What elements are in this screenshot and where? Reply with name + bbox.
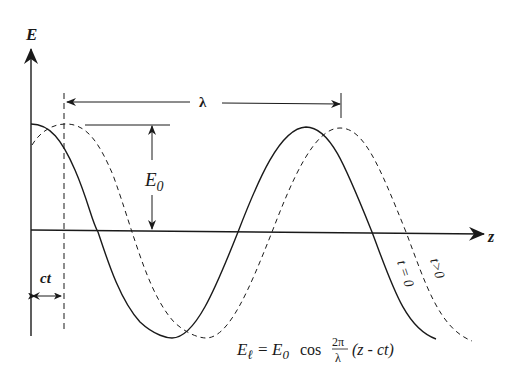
wave-diagram: E z ct λ E0 t = 0 t>0 Eℓ = E0 cos 2π λ (…	[0, 0, 515, 385]
e-axis-label: E	[25, 25, 37, 44]
z-axis-label: z	[487, 228, 495, 245]
wavelength-label: λ	[199, 94, 207, 110]
svg-text:=: =	[258, 340, 268, 359]
svg-text:E0: E0	[271, 340, 289, 362]
svg-text:Eℓ: Eℓ	[236, 340, 253, 362]
amplitude-label: E0	[144, 169, 164, 194]
svg-text:(z - ct): (z - ct)	[352, 341, 394, 359]
ct-label: ct	[40, 270, 52, 286]
wave-formula: Eℓ = E0 cos 2π λ (z - ct)	[236, 335, 394, 365]
svg-text:cos: cos	[300, 341, 321, 358]
svg-text:λ: λ	[335, 351, 341, 365]
svg-text:2π: 2π	[332, 335, 344, 349]
curve-tgt0-label: t>0	[427, 256, 448, 280]
wavelength-arrow-right	[222, 103, 340, 104]
curve-t0-label: t = 0	[394, 258, 417, 289]
